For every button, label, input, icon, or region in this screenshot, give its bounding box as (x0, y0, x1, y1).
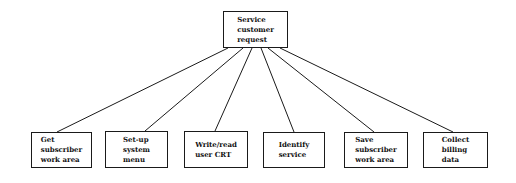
node-label: Write/read user CRT (195, 140, 237, 160)
node-label: Service customer request (237, 15, 274, 45)
node-identify-service: Identify service (263, 132, 325, 168)
link-root-to-c5 (268, 48, 374, 132)
node-save-subscriber-work-area: Save subscriber work area (344, 132, 408, 168)
node-set-up-system-menu: Set-up system menu (105, 131, 168, 168)
node-label: Set-up system menu (123, 135, 150, 165)
node-label: Identify service (279, 140, 310, 160)
node-label: Get subscriber work area (41, 135, 83, 165)
node-get-subscriber-work-area: Get subscriber work area (31, 132, 92, 168)
node-write-read-user-crt: Write/read user CRT (184, 131, 248, 168)
link-root-to-c4 (261, 48, 294, 132)
hierarchy-diagram: Service customer request Get subscriber … (0, 0, 516, 183)
link-root-to-c1 (57, 48, 228, 132)
link-root-to-c2 (145, 48, 243, 131)
node-label: Collect billing data (442, 135, 470, 165)
link-root-to-c6 (280, 48, 453, 132)
node-label: Save subscriber work area (355, 135, 397, 165)
node-collect-billing-data: Collect billing data (423, 132, 488, 168)
link-root-to-c3 (215, 48, 252, 131)
node-service-customer-request: Service customer request (223, 11, 288, 48)
